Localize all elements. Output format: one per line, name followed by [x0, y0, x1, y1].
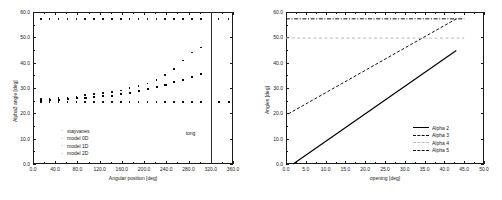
y-tick-label: 30.0 [260, 85, 283, 91]
y-minor-tick [33, 50, 35, 51]
scatter-point [76, 18, 78, 20]
scatter-point [40, 98, 42, 100]
y-tick-label: 40.0 [7, 60, 30, 66]
x-minor-tick [155, 162, 156, 164]
legend-right: Alpha 2Alpha 3Alpha 4Alpha 5 [413, 124, 449, 154]
x-axis-label-right: opening [deg] [286, 175, 484, 181]
scatter-point [147, 83, 149, 85]
legend-item: Alpha 5 [413, 147, 449, 155]
scatter-point [49, 101, 51, 103]
x-tick-mark-top [166, 12, 167, 15]
scatter-point [138, 85, 140, 87]
scatter-point [200, 73, 202, 75]
scatter-point [49, 18, 51, 20]
legend-item: ·model 1D [60, 142, 90, 150]
scatter-point [182, 79, 184, 81]
x-minor-tick [133, 162, 134, 164]
scatter-point [49, 99, 51, 101]
y-minor-tick [33, 25, 35, 26]
y-tick-mark-right [230, 37, 233, 38]
legend-line-swatch [413, 127, 429, 128]
x-tick-label: 40.0 [44, 166, 66, 172]
scatter-point [138, 90, 140, 92]
y-tick-mark-right [230, 12, 233, 13]
legend-label: Alpha 5 [432, 147, 449, 153]
x-tick-mark-top [189, 12, 190, 15]
y-tick-mark-right [230, 164, 233, 165]
x-tick-mark [166, 161, 167, 164]
legend-marker-dot: · [60, 136, 64, 141]
scatter-point [102, 18, 104, 20]
scatter-point [76, 96, 78, 98]
legend-item: ·stayvanes [60, 127, 90, 135]
scatter-point [84, 97, 86, 99]
scatter-point [76, 97, 78, 99]
x-tick-label: 5.0 [295, 166, 317, 172]
legend-label: Alpha 2 [432, 125, 449, 131]
x-tick-mark [233, 161, 234, 164]
scatter-point [111, 101, 113, 103]
legend-label: model 1D [67, 143, 88, 149]
x-minor-tick-top [222, 12, 223, 14]
y-tick-label: 40.0 [260, 60, 283, 66]
scatter-point [93, 96, 95, 98]
x-tick-label: 320.0 [200, 166, 222, 172]
x-tick-mark [122, 161, 123, 164]
y-tick-label: 30.0 [7, 85, 30, 91]
scatter-point [147, 88, 149, 90]
x-minor-tick-top [66, 12, 67, 14]
x-tick-label: 200.0 [133, 166, 155, 172]
scatter-point [228, 101, 230, 103]
scatter-point [164, 84, 166, 86]
scatter-point [191, 18, 193, 20]
scatter-point [93, 93, 95, 95]
y-tick-mark-right [230, 88, 233, 89]
x-tick-mark [33, 161, 34, 164]
y-minor-tick [33, 75, 35, 76]
legend-marker-dot: · [60, 128, 64, 133]
x-tick-mark [484, 161, 485, 164]
x-minor-tick-top [155, 12, 156, 14]
x-axis-label-left: Angular position [deg] [33, 175, 233, 181]
legend-marker-dot: · [60, 151, 64, 156]
legend-item: ·model 2D [60, 150, 90, 158]
x-minor-tick-top [177, 12, 178, 14]
scatter-point [84, 18, 86, 20]
scatter-point [138, 18, 140, 20]
y-tick-label: 20.0 [7, 110, 30, 116]
scatter-point [129, 92, 131, 94]
x-tick-mark-top [233, 12, 234, 15]
y-minor-tick [33, 126, 35, 127]
scatter-point [67, 101, 69, 103]
y-tick-label: 20.0 [260, 110, 283, 116]
scatter-point [218, 18, 220, 20]
x-tick-mark-top [484, 12, 485, 15]
scatter-point [49, 98, 51, 100]
scatter-point [200, 18, 202, 20]
scatter-point [120, 93, 122, 95]
x-tick-mark [77, 161, 78, 164]
scatter-point [84, 101, 86, 103]
y-tick-mark [33, 63, 36, 64]
x-tick-label: 35.0 [414, 166, 436, 172]
y-tick-mark [33, 88, 36, 89]
scatter-point [156, 86, 158, 88]
scatter-point [164, 101, 166, 103]
scatter-point [173, 101, 175, 103]
y-tick-mark [286, 164, 289, 165]
x-tick-label: 0.0 [275, 166, 297, 172]
y-tick-mark [33, 37, 36, 38]
legend-item: Alpha 2 [413, 124, 449, 132]
x-minor-tick-top [89, 12, 90, 14]
x-tick-label: 280.0 [178, 166, 200, 172]
scatter-point [173, 18, 175, 20]
legend-label: model 0D [67, 135, 88, 141]
x-tick-mark [100, 161, 101, 164]
scatter-point [93, 101, 95, 103]
y-tick-mark [33, 164, 36, 165]
scatter-point [156, 79, 158, 81]
y-tick-label: 60.0 [7, 9, 30, 15]
legend-marker-dot: · [60, 143, 64, 148]
x-minor-tick-top [111, 12, 112, 14]
y-tick-mark-right [481, 164, 484, 165]
